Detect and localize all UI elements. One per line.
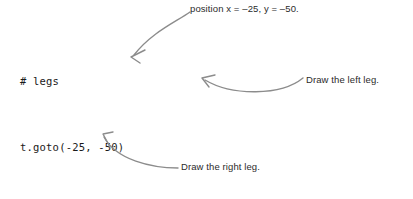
arrow-shaft bbox=[205, 78, 303, 92]
annotation-right-leg-label: Draw the right leg. bbox=[181, 161, 260, 172]
code-listing: # legs t.goto(-25, -50) rectangle(15, 10… bbox=[20, 26, 196, 199]
arrowhead bbox=[202, 75, 215, 87]
annotation-position-label: position x = –25, y = –50. bbox=[190, 3, 299, 14]
code-line: t.goto(-25, -50) bbox=[20, 136, 196, 158]
code-annotation-figure: # legs t.goto(-25, -50) rectangle(15, 10… bbox=[0, 0, 413, 199]
annotation-left-leg-label: Draw the left leg. bbox=[306, 74, 379, 85]
code-line: # legs bbox=[20, 70, 196, 92]
arrow-to-left-leg-line bbox=[202, 75, 303, 92]
